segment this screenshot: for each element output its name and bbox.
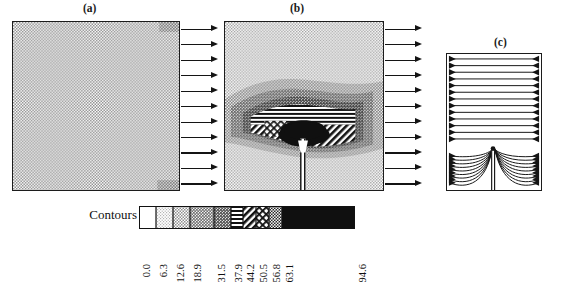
streamline-arrowhead [449, 89, 456, 95]
streamline-arrowhead [449, 116, 456, 122]
streamline-arrowhead [449, 122, 456, 128]
streamline-arrowhead [532, 89, 539, 95]
legend-tick-label: 6.3 [158, 264, 169, 277]
legend-tick-label: 37.9 [233, 264, 244, 282]
streamline-arrowhead [449, 129, 456, 135]
streamline-arrowhead [532, 122, 539, 128]
panel-c [446, 53, 542, 191]
legend-tick-label: 50.5 [258, 264, 269, 282]
streamline-arrowhead [449, 82, 456, 88]
legend-tick-label: 31.5 [216, 264, 227, 282]
panel-a-field [13, 22, 179, 190]
panel-label-c: (c) [494, 36, 507, 48]
streamline-arrowhead [449, 69, 456, 75]
panel-b-field [225, 22, 383, 190]
streamline-arrowhead [532, 129, 539, 135]
legend-tick-label: 44.2 [245, 264, 256, 282]
outflow-arrows-panel-b [385, 21, 427, 191]
legend-tick-label: 0.0 [141, 264, 152, 277]
streamline-arrowhead [449, 109, 456, 115]
panel-b [224, 21, 384, 191]
legend-tick-label: 63.1 [284, 264, 295, 282]
panel-label-a: (a) [83, 2, 96, 14]
streamline-arrowhead [532, 109, 539, 115]
legend-tick-label: 94.6 [357, 264, 368, 282]
streamline-arrowhead [449, 136, 456, 142]
panel-c-streamlines [447, 54, 541, 190]
streamline-arrowhead [532, 116, 539, 122]
streamline-arrowhead [532, 96, 539, 102]
streamline-arrowhead [449, 62, 456, 68]
streamline-arrowhead [449, 102, 456, 108]
panel-a [12, 21, 180, 191]
contours-legend [139, 206, 355, 229]
streamline-arrowhead [532, 69, 539, 75]
outflow-arrows-panel-a [181, 21, 223, 191]
legend-tick-label: 18.9 [192, 264, 203, 282]
legend-tick-labels: 0.06.312.618.931.537.944.250.556.863.194… [139, 232, 439, 266]
legend-tick-label: 12.6 [175, 264, 186, 282]
panel-label-b: (b) [290, 2, 304, 14]
streamline-arrowhead [532, 102, 539, 108]
streamline-arrowhead [532, 76, 539, 82]
legend-border [139, 206, 355, 229]
streamline-arrowhead [532, 62, 539, 68]
streamline-arrowhead [532, 82, 539, 88]
streamline [449, 150, 492, 161]
streamline-arrowhead [449, 76, 456, 82]
streamline-arrowhead [532, 56, 539, 62]
streamline-arrowhead [449, 56, 456, 62]
contours-legend-title: Contours [57, 207, 137, 223]
legend-tick-label: 56.8 [271, 264, 282, 282]
streamline-arrowhead [532, 136, 539, 142]
streamline-arrowhead [449, 96, 456, 102]
